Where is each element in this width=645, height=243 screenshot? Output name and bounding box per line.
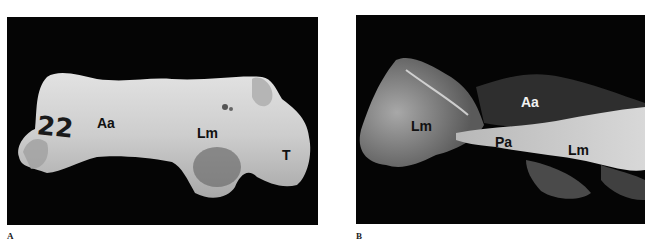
panel-letter-b: B: [356, 231, 362, 241]
annotation-lm-left: Lm: [411, 119, 432, 133]
annotation-lm-right: Lm: [568, 143, 589, 157]
bone-photo-illustration: 22: [7, 17, 318, 225]
bone-xray-illustration: [356, 15, 645, 224]
annotation-pa: Pa: [495, 135, 512, 149]
annotation-lm: Lm: [197, 126, 218, 140]
annotation-aa: Aa: [97, 116, 115, 130]
svg-text:22: 22: [36, 110, 75, 144]
panel-letter-a: A: [7, 231, 14, 241]
annotation-t: T: [282, 148, 291, 162]
panel-b-radiograph: Lm Aa Pa Lm: [356, 15, 645, 224]
annotation-aa: Aa: [521, 95, 539, 109]
panel-a-photograph: 22 Aa Lm T: [7, 17, 318, 225]
